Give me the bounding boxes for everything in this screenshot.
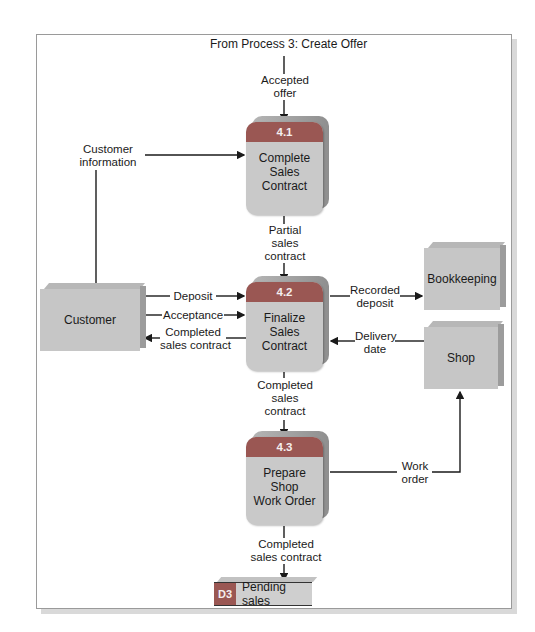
entity-face: Bookkeeping: [424, 248, 500, 310]
source-process-label: From Process 3: Create Offer: [210, 38, 358, 51]
entity-side: [500, 245, 506, 307]
process-4-3[interactable]: 4.3 Prepare Shop Work Order: [246, 437, 323, 525]
entity-side: [498, 324, 504, 386]
process-id: 4.3: [246, 437, 323, 457]
flow-label-delivery-date: Delivery date: [355, 330, 395, 356]
flow-label-work-order: Work order: [398, 460, 432, 486]
process-face: 4.1 Complete Sales Contract: [246, 122, 323, 215]
process-name: Finalize Sales Contract: [246, 302, 323, 353]
process-name: Complete Sales Contract: [246, 142, 323, 193]
process-face: 4.2 Finalize Sales Contract: [246, 282, 323, 371]
entity-label: Bookkeeping: [427, 272, 496, 286]
entity-face: Shop: [424, 327, 498, 389]
entity-face: Customer: [40, 289, 140, 351]
data-store-id: D3: [214, 583, 236, 605]
process-4-1[interactable]: 4.1 Complete Sales Contract: [246, 122, 323, 215]
flow-label-partial-sales-contract: Partial sales contract: [262, 224, 308, 263]
flow-label-deposit: Deposit: [171, 290, 215, 303]
data-store-top: [217, 577, 317, 582]
process-name: Prepare Shop Work Order: [246, 457, 323, 508]
entity-side: [140, 286, 146, 348]
process-face: 4.3 Prepare Shop Work Order: [246, 437, 323, 525]
process-4-2[interactable]: 4.2 Finalize Sales Contract: [246, 282, 323, 371]
flow-label-recorded-deposit: Recorded deposit: [350, 284, 400, 310]
flow-label-accepted-offer: Accepted offer: [258, 74, 312, 100]
flow-label-completed-sales-contract-to-d3: Completed sales contract: [250, 538, 322, 564]
process-id: 4.1: [246, 122, 323, 142]
data-store-name: Pending sales: [236, 583, 312, 605]
flow-label-acceptance: Acceptance: [163, 309, 223, 322]
flow-label-completed-sales-contract-to-customer: Completed sales contract: [160, 326, 226, 352]
entity-label: Shop: [447, 351, 475, 365]
flow-label-customer-information: Customer information: [72, 143, 144, 169]
process-id: 4.2: [246, 282, 323, 302]
flow-label-completed-sales-contract-to-4-3: Completed sales contract: [254, 379, 316, 418]
entity-label: Customer: [64, 313, 116, 327]
data-store-d3[interactable]: D3 Pending sales: [214, 582, 312, 606]
